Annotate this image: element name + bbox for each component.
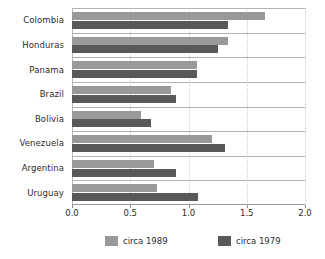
bar-honduras-circa-1989 [72,37,228,45]
x-tick-label-1.5: 1.5 [240,209,254,218]
bar-uruguay-circa-1989 [72,184,157,192]
plot-area [72,8,305,205]
gridline-2.0 [305,8,307,205]
legend-label: circa 1979 [236,237,281,246]
bar-chart: ColombiaHondurasPanamaBrazilBoliviaVenez… [0,0,325,259]
bar-bolivia-circa-1989 [72,111,141,119]
legend-item-circa-1979[interactable]: circa 1979 [218,236,281,246]
bar-bolivia-circa-1979 [72,119,151,127]
x-axis-ticks: 0.00.51.01.52.0 [72,205,305,219]
category-label-honduras: Honduras [22,41,64,50]
bar-colombia-circa-1989 [72,12,265,20]
category-label-uruguay: Uruguay [27,189,64,198]
bar-venezuela-circa-1979 [72,144,225,152]
category-axis-labels: ColombiaHondurasPanamaBrazilBoliviaVenez… [0,8,68,205]
x-tick-label-0.0: 0.0 [65,209,79,218]
legend-label: circa 1989 [123,237,168,246]
group-separator [72,131,305,132]
bar-colombia-circa-1979 [72,21,228,29]
bar-panama-circa-1979 [72,70,197,78]
bar-brazil-circa-1979 [72,95,176,103]
legend-swatch-icon [218,236,231,246]
bar-honduras-circa-1979 [72,45,218,53]
group-separator [72,57,305,58]
x-tick-label-2.0: 2.0 [298,209,312,218]
bar-brazil-circa-1989 [72,86,171,94]
bar-venezuela-circa-1989 [72,135,212,143]
group-separator [72,156,305,157]
category-label-bolivia: Bolivia [35,115,64,124]
category-label-panama: Panama [29,66,64,75]
chart-legend: circa 1989circa 1979 [0,233,325,251]
bar-argentina-circa-1979 [72,169,176,177]
bar-uruguay-circa-1979 [72,193,198,201]
category-label-venezuela: Venezuela [19,139,64,148]
group-separator [72,33,305,34]
group-separator [72,107,305,108]
legend-swatch-icon [105,236,118,246]
group-separator [72,8,305,9]
category-label-argentina: Argentina [22,164,64,173]
bar-panama-circa-1989 [72,61,197,69]
group-separator [72,82,305,83]
legend-item-circa-1989[interactable]: circa 1989 [105,236,168,246]
category-label-colombia: Colombia [23,16,64,25]
x-tick-label-1.0: 1.0 [182,209,196,218]
category-label-brazil: Brazil [40,90,64,99]
x-tick-label-0.5: 0.5 [123,209,137,218]
bar-argentina-circa-1989 [72,160,154,168]
group-separator [72,180,305,181]
